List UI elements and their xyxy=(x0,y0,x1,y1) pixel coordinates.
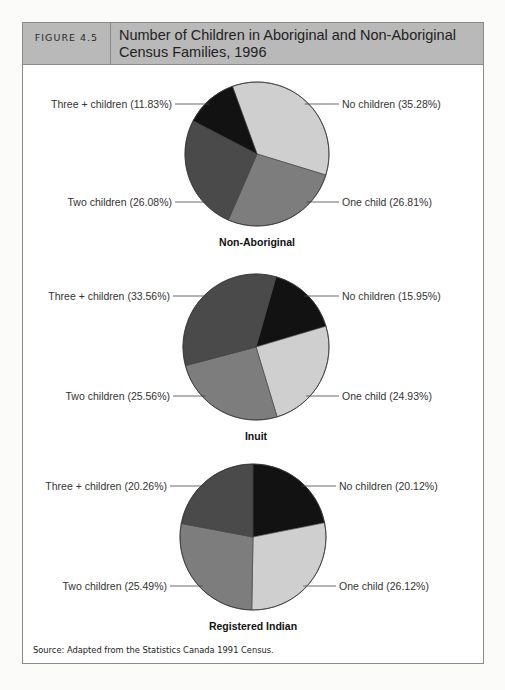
figure-title-line2: Census Families, 1996 xyxy=(119,44,475,61)
figure-box: FIGURE 4.5 Number of Children in Aborigi… xyxy=(22,22,484,664)
figure-title-line1: Number of Children in Aboriginal and Non… xyxy=(119,27,475,44)
figure-number: FIGURE 4.5 xyxy=(23,23,111,64)
figure-title: Number of Children in Aboriginal and Non… xyxy=(111,23,483,64)
figure-header: FIGURE 4.5 Number of Children in Aborigi… xyxy=(23,23,483,65)
figure-source: Source: Adapted from the Statistics Cana… xyxy=(33,645,274,655)
